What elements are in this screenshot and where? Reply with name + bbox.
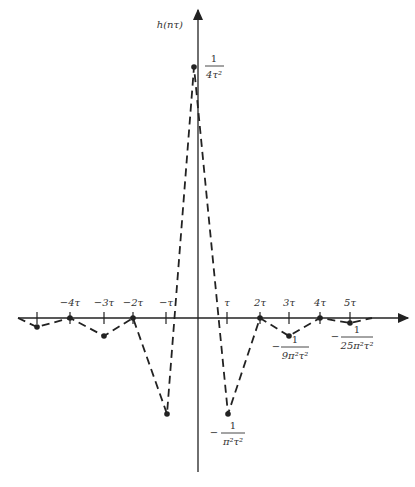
- tick-label-m1: −τ: [159, 297, 173, 308]
- y-axis-label: h(nτ): [157, 19, 183, 30]
- annotation-min-5: − 1 25π²τ²: [331, 324, 374, 351]
- tick-label-p2: 2τ: [253, 297, 266, 308]
- chart: −4τ −3τ −2τ −τ τ 2τ 3τ 4τ 5τ h(nτ) 1 4τ²…: [0, 0, 415, 487]
- svg-text:9π²τ²: 9π²τ²: [282, 350, 308, 361]
- svg-text:25π²τ²: 25π²τ²: [340, 340, 374, 351]
- svg-text:−: −: [272, 341, 280, 352]
- tick-label-p1: τ: [224, 297, 230, 308]
- tick-label-m3: −3τ: [94, 297, 115, 308]
- data-line: [18, 67, 372, 414]
- svg-text:4τ²: 4τ²: [205, 69, 222, 80]
- svg-text:1: 1: [354, 324, 360, 335]
- svg-text:−: −: [210, 427, 218, 438]
- annotation-min-1: − 1 π²τ²: [210, 420, 245, 447]
- svg-text:1: 1: [292, 334, 298, 345]
- svg-text:−: −: [331, 331, 339, 342]
- svg-text:1: 1: [230, 420, 236, 431]
- svg-text:π²τ²: π²τ²: [222, 436, 243, 447]
- tick-label-p4: 4τ: [313, 297, 326, 308]
- annotation-peak: 1 4τ²: [205, 53, 224, 80]
- tick-label-p3: 3τ: [283, 297, 295, 308]
- tick-label-p5: 5τ: [344, 297, 356, 308]
- svg-text:1: 1: [211, 53, 217, 64]
- data-points: [34, 64, 353, 417]
- tick-label-m2: −2τ: [123, 297, 144, 308]
- tick-label-m4: −4τ: [60, 297, 81, 308]
